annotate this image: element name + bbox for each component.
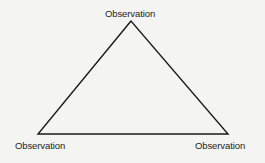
triangle-outline — [38, 21, 228, 134]
vertex-label-top: Observation — [105, 9, 155, 19]
diagram-canvas: Observation Observation Observation — [0, 0, 265, 163]
vertex-label-bottom-left: Observation — [15, 141, 65, 151]
triangle-shape — [0, 0, 265, 163]
vertex-label-bottom-right: Observation — [195, 141, 245, 151]
